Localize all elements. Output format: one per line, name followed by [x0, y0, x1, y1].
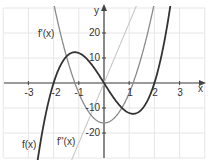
x-tick-label: 3 — [177, 88, 183, 98]
f-label: f(x) — [22, 140, 36, 150]
function-plot — [0, 0, 208, 162]
x-tick-label: 2 — [152, 88, 158, 98]
x-tick-label: 1 — [127, 88, 133, 98]
y-tick-label: 10 — [89, 53, 100, 63]
f-double-prime-label: f''(x) — [57, 137, 75, 147]
x-tick-label: -3 — [25, 88, 34, 98]
y-axis-label: y — [94, 6, 99, 16]
x-tick-label: -1 — [75, 88, 84, 98]
y-tick-label: 20 — [89, 28, 100, 38]
x-tick-label: -2 — [52, 88, 61, 98]
y-tick-label: -20 — [86, 128, 100, 138]
x-axis-label: x — [198, 84, 203, 94]
y-tick-label: -10 — [86, 103, 100, 113]
f-prime-label: f'(x) — [38, 29, 54, 39]
